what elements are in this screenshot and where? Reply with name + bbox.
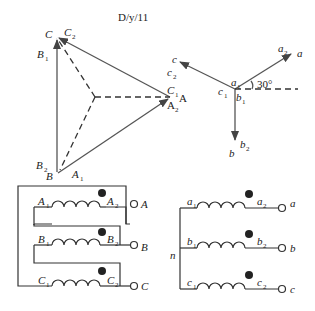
svg-text:2: 2 (263, 283, 267, 291)
terminal-b-lower (279, 245, 286, 252)
polarity-dot-c (98, 267, 106, 275)
winding-coil-a (52, 201, 100, 207)
svg-text:B: B (107, 233, 114, 245)
phasor-ba (58, 99, 168, 173)
phase-angle-label: 30° (257, 78, 272, 90)
svg-text:1: 1 (45, 55, 49, 63)
svg-text:1: 1 (80, 175, 84, 183)
phase-c-label: c (172, 53, 177, 65)
terminal-a-lower-label: a (290, 197, 296, 209)
svg-text:1: 1 (46, 281, 50, 289)
svg-text:c: c (167, 66, 172, 78)
terminal-c-lower (279, 286, 286, 293)
svg-text:c: c (187, 276, 192, 288)
svg-text:2: 2 (115, 281, 119, 289)
winding-coil-b-lower (197, 242, 245, 248)
vector-group-title: D/y/11 (118, 11, 148, 23)
wye-phasor-diagram: 30° a 2 a c c 2 a 1 c 1 b 1 b 2 b (167, 42, 303, 159)
terminal-c-label: C (141, 280, 149, 292)
delta-winding-connection: A 1 A 2 A B 1 B 2 B C 1 C 2 C (18, 186, 149, 292)
polarity-dot-c-lower (245, 271, 253, 279)
svg-text:2: 2 (263, 242, 267, 250)
polarity-dot-a-lower (245, 190, 253, 198)
svg-text:1: 1 (46, 202, 50, 210)
svg-text:A: A (106, 195, 114, 207)
polarity-dot-a (98, 189, 106, 197)
svg-text:A: A (71, 168, 79, 180)
winding-coil-b (52, 239, 100, 245)
svg-text:B: B (36, 159, 43, 171)
winding-coil-c-lower (197, 283, 245, 289)
svg-text:2: 2 (175, 106, 179, 114)
winding-coil-a-lower (197, 202, 245, 208)
svg-text:A: A (167, 99, 175, 111)
terminal-c (131, 283, 138, 290)
svg-text:2: 2 (284, 49, 288, 57)
svg-text:2: 2 (263, 202, 267, 210)
winding-coil-c (52, 280, 100, 286)
vertex-a-label: A (179, 92, 187, 104)
svg-text:C: C (107, 274, 115, 286)
svg-text:2: 2 (173, 73, 177, 81)
svg-text:A: A (37, 195, 45, 207)
svg-text:B: B (38, 233, 45, 245)
transformer-connection-diagram: D/y/11 C C 2 B 1 C 1 A A 2 B 2 B A 1 (0, 0, 315, 311)
svg-text:B: B (37, 48, 44, 60)
polarity-dot-b (98, 228, 106, 236)
svg-text:1: 1 (242, 98, 246, 106)
angle-arc (251, 81, 253, 89)
svg-text:1: 1 (193, 242, 197, 250)
svg-text:C: C (64, 26, 72, 38)
svg-text:2: 2 (72, 33, 76, 41)
wye-winding-connection: n a 1 a 2 a b 1 b 2 b c 1 c 2 c (170, 190, 296, 295)
phasor-c (180, 62, 235, 89)
terminal-a (131, 201, 138, 208)
svg-text:1: 1 (224, 92, 228, 100)
svg-text:2: 2 (115, 240, 119, 248)
phase-b-label: b (229, 147, 235, 159)
svg-text:2: 2 (246, 145, 250, 153)
terminal-b (131, 242, 138, 249)
svg-text:c: c (218, 85, 223, 97)
svg-text:1: 1 (237, 83, 241, 91)
svg-text:1: 1 (193, 202, 197, 210)
terminal-b-label: B (141, 241, 148, 253)
svg-text:2: 2 (115, 202, 119, 210)
dashed-line-b (60, 97, 95, 170)
vertex-c-label: C (45, 28, 53, 40)
svg-text:c: c (257, 276, 262, 288)
svg-text:C: C (38, 274, 46, 286)
terminal-b-lower-label: b (290, 242, 296, 254)
neutral-label: n (170, 249, 176, 261)
vertex-b-label: B (46, 170, 53, 182)
phase-a-label: a (297, 47, 303, 59)
svg-text:1: 1 (193, 283, 197, 291)
polarity-dot-b-lower (245, 230, 253, 238)
delta-phasor-diagram: C C 2 B 1 C 1 A A 2 B 2 B A 1 (36, 26, 187, 183)
terminal-c-lower-label: c (290, 283, 295, 295)
svg-text:C: C (167, 84, 175, 96)
svg-text:1: 1 (46, 240, 50, 248)
terminal-a-label: A (140, 198, 148, 210)
terminal-a-lower (279, 205, 286, 212)
